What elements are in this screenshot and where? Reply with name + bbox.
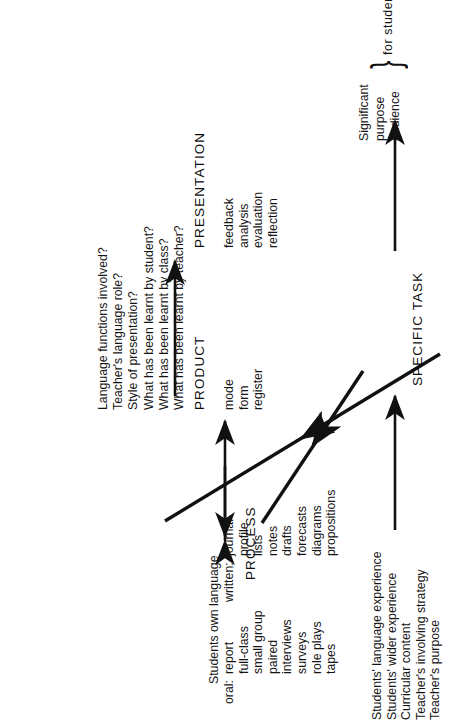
significant-line: Significant xyxy=(357,84,373,141)
list-item: diagrams xyxy=(310,490,325,556)
list-item: analysis xyxy=(237,192,252,248)
oral-label: oral: xyxy=(222,680,237,704)
list-item: lists xyxy=(251,490,266,556)
list-item: form xyxy=(237,369,252,410)
diagram-canvas: Students' language experience Students' … xyxy=(0,0,450,726)
list-item: role plays xyxy=(310,610,325,674)
list-item: tapes xyxy=(324,610,339,674)
list-item: profile xyxy=(237,490,252,556)
list-item: What has been learnt by class? xyxy=(157,225,172,410)
written-label: written: xyxy=(222,562,237,602)
process-written-list: journal profile lists notes drafts forec… xyxy=(222,490,339,556)
stage-label-presentation: PRESENTATION xyxy=(192,132,207,248)
evaluation-questions-list: Language functions involved? Teacher's l… xyxy=(96,225,187,410)
list-item: Students' wider experience xyxy=(385,552,400,720)
list-item: Style of presentation? xyxy=(126,225,141,410)
list-item: surveys xyxy=(295,610,310,674)
list-item: reflection xyxy=(266,192,281,248)
list-item: Teacher's language role? xyxy=(111,225,126,410)
list-item: evaluation xyxy=(251,192,266,248)
list-item: report xyxy=(222,610,237,674)
curly-brace-icon: } xyxy=(366,60,407,69)
arrowhead-specific-task-to-process xyxy=(313,426,326,445)
stage-label-product: PRODUCT xyxy=(192,336,207,410)
list-item: small group xyxy=(251,610,266,674)
process-oral-list: report full-class small group paired int… xyxy=(222,610,339,674)
process-oral-label: oral: xyxy=(222,680,237,704)
list-item: What has been learnt by teacher? xyxy=(172,225,187,410)
significant-list: Significant purpose audience xyxy=(357,84,404,141)
significant-line: audience xyxy=(388,84,404,141)
for-student-label: for student xyxy=(381,0,395,55)
list-item: Students' language experience xyxy=(370,552,385,720)
list-item: Teacher's involving strategy xyxy=(414,552,429,720)
inputs-list: Students' language experience Students' … xyxy=(370,552,443,720)
list-item: Language functions involved? xyxy=(96,225,111,410)
list-item: notes xyxy=(266,490,281,556)
arrowhead-product-to-specific-task xyxy=(302,416,338,438)
list-item: mode xyxy=(222,369,237,410)
presentation-outcomes-list: feedback analysis evaluation reflection xyxy=(222,192,280,248)
figure-rotation-wrapper: Students' language experience Students' … xyxy=(0,0,450,726)
list-item: forecasts xyxy=(295,490,310,556)
list-item: Curricular content xyxy=(399,552,414,720)
list-item: register xyxy=(251,369,266,410)
list-item: Teacher's purpose xyxy=(428,552,443,720)
list-item: interviews xyxy=(280,610,295,674)
process-block-heading: Students own language xyxy=(207,555,222,684)
list-item: paired xyxy=(266,610,281,674)
product-attributes-list: mode form register xyxy=(222,369,266,410)
list-item: full-class xyxy=(237,610,252,674)
list-item: What has been learnt by student? xyxy=(142,225,157,410)
list-item: propositions xyxy=(324,490,339,556)
significant-line: purpose xyxy=(373,84,389,141)
list-item: feedback xyxy=(222,192,237,248)
list-item: drafts xyxy=(280,490,295,556)
list-item: journal xyxy=(222,490,237,556)
stage-label-specific-task: SPECIFIC TASK xyxy=(410,272,425,386)
process-written-label: written: xyxy=(222,562,237,602)
